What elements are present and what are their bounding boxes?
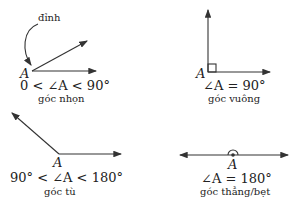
angle-relation: ∠A = 90°	[203, 78, 265, 93]
vertex-label: A	[228, 157, 237, 172]
obtuse-angle	[12, 113, 121, 154]
angle-relation: ∠A = 180°	[201, 171, 272, 186]
vertex-label: A	[53, 155, 62, 170]
right-angle	[208, 10, 270, 72]
angle-name: góc tù	[44, 186, 76, 197]
angle-relation: 90° < ∠A < 180°	[10, 170, 123, 185]
angle-name: góc nhọn	[38, 93, 85, 104]
acute-angle	[25, 24, 96, 71]
angle-relation: 0 < ∠A < 90°	[20, 78, 110, 93]
angle-name: góc vuông	[208, 93, 260, 104]
angle-name: góc thẳng/bẹt	[200, 186, 270, 197]
vertex-annotation: đỉnh	[38, 12, 60, 23]
